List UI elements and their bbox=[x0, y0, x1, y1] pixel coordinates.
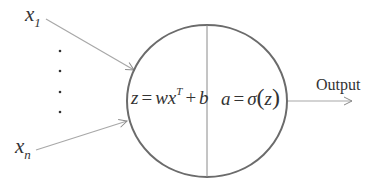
eq-transpose: T bbox=[176, 85, 182, 97]
activation-equation: a=σ(z) bbox=[221, 84, 280, 111]
eq-plus: + bbox=[182, 87, 199, 108]
input-arrow-xn bbox=[36, 121, 127, 150]
input-subscript: n bbox=[24, 147, 31, 162]
input-xn-label: xn bbox=[15, 134, 31, 159]
input-x1-label: x1 bbox=[25, 2, 41, 27]
eq-b: b bbox=[199, 87, 209, 108]
eq-sigma: σ bbox=[247, 88, 256, 109]
eq-arg: z bbox=[265, 88, 272, 109]
input-symbol: x bbox=[15, 134, 24, 158]
eq-equals: = bbox=[231, 88, 248, 109]
ellipsis-dots bbox=[59, 50, 62, 114]
eq-w: w bbox=[155, 87, 168, 108]
eq-a: a bbox=[221, 88, 231, 109]
input-arrow-x1 bbox=[46, 19, 134, 70]
input-symbol: x bbox=[25, 2, 34, 26]
output-label: Output bbox=[316, 76, 360, 94]
linear-equation: z=wxT+b bbox=[131, 87, 209, 109]
eq-open-paren: ( bbox=[257, 84, 265, 110]
eq-close-paren: ) bbox=[272, 84, 280, 110]
eq-equals: = bbox=[138, 87, 155, 108]
input-subscript: 1 bbox=[34, 15, 41, 30]
eq-x: x bbox=[168, 87, 176, 108]
